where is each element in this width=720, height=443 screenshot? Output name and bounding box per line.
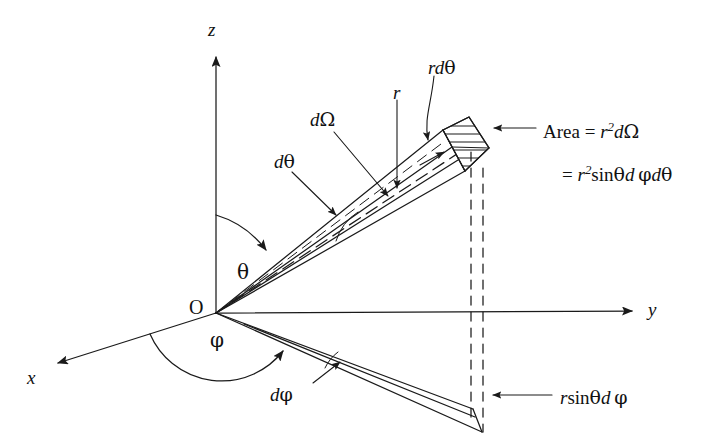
- projection-dashed-lines: [471, 152, 483, 432]
- x-axis: [58, 313, 216, 363]
- d-phi-label: dφ: [270, 385, 293, 404]
- d-omega-label: dΩ: [310, 110, 335, 129]
- area-equation-line2: = r2sinθd φdθ: [562, 164, 673, 184]
- area-equation-line1: Area = r2dΩ: [543, 121, 639, 141]
- area-patch: [438, 117, 494, 171]
- phi-angle-label: φ: [210, 330, 224, 350]
- theta-angle-arc: [216, 215, 266, 250]
- cone-inner-arrow: [420, 152, 444, 165]
- r-label: r: [393, 83, 400, 102]
- r-d-theta-label: rdθ: [428, 58, 456, 77]
- solid-angle-diagram: [0, 0, 720, 443]
- solid-angle-cone: [216, 130, 465, 313]
- x-axis-label: x: [27, 368, 35, 387]
- y-axis: [216, 311, 632, 313]
- d-theta-label: dθ: [274, 152, 295, 171]
- theta-angle-label: θ: [237, 262, 249, 282]
- figure-canvas: z y x O θ φ dθ dΩ r rdθ dφ Area = r2dΩ =…: [0, 0, 720, 443]
- y-axis-label: y: [648, 300, 656, 319]
- arc-length-label: rsinθd φ: [560, 388, 628, 407]
- z-axis-label: z: [208, 20, 215, 39]
- origin-label: O: [189, 297, 203, 317]
